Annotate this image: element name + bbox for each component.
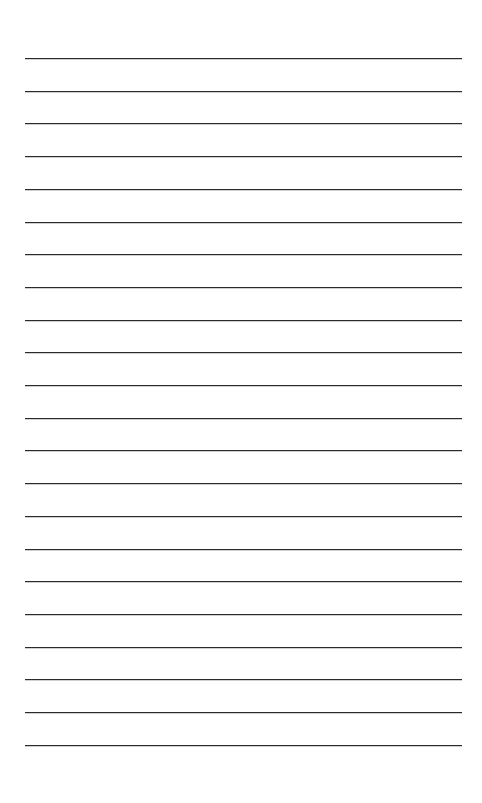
ruled-line: [25, 320, 462, 321]
ruled-line: [25, 352, 462, 353]
ruled-line: [25, 745, 462, 746]
ruled-line: [25, 91, 462, 92]
ruled-line: [25, 614, 462, 615]
ruled-line: [25, 581, 462, 582]
ruled-line: [25, 549, 462, 550]
ruled-line: [25, 123, 462, 124]
ruled-line: [25, 516, 462, 517]
ruled-line: [25, 483, 462, 484]
ruled-line: [25, 712, 462, 713]
ruled-line: [25, 418, 462, 419]
lined-paper-page: [0, 0, 482, 803]
ruled-line: [25, 679, 462, 680]
ruled-line: [25, 58, 462, 59]
ruled-line: [25, 189, 462, 190]
ruled-line: [25, 254, 462, 255]
ruled-line: [25, 385, 462, 386]
ruled-line: [25, 156, 462, 157]
ruled-line: [25, 287, 462, 288]
ruled-line: [25, 647, 462, 648]
ruled-line: [25, 222, 462, 223]
ruled-line: [25, 450, 462, 451]
